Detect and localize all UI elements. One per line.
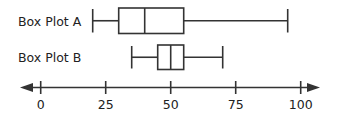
tick-label: 50 [163,97,179,112]
box-plot-chart: Box Plot A Box Plot B 0255075100 [0,0,339,119]
tick-label: 25 [98,97,114,112]
box-plot-a [93,8,288,34]
tick-label: 75 [228,97,244,112]
box-plot-b [132,45,223,70]
box-plot-b-label: Box Plot B [18,50,81,65]
tick-label: 100 [289,97,313,112]
left-arrow-icon [20,83,33,92]
box-plot-a-label: Box Plot A [18,14,82,29]
number-line-axis: 0255075100 [20,81,320,112]
iqr-box [119,8,184,34]
right-arrow-icon [307,83,320,92]
tick-label: 0 [37,97,45,112]
